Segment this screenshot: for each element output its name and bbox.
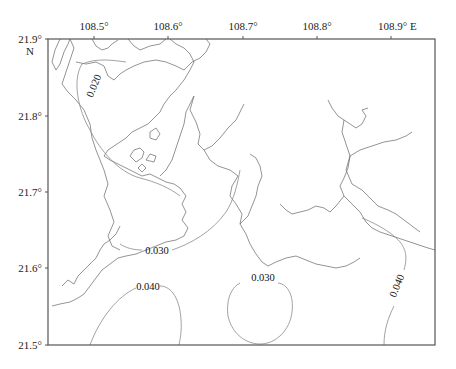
x-axis: 108.5° 108.6° 108.7° 108.8° 108.9° E — [79, 20, 416, 39]
y-tick-label-2: 21.8° — [18, 110, 42, 122]
contour-label-0030-west: 0.030 — [145, 245, 169, 256]
x-tick-label-5: 108.9° E — [378, 20, 417, 32]
contour-label-0040-west: 0.040 — [136, 281, 160, 292]
y-tick-label-5: 21.5° — [18, 339, 42, 351]
coastline-group — [52, 39, 435, 306]
coastline-north-bay — [76, 39, 210, 80]
y-tick-label-4: 21.6° — [18, 262, 42, 274]
island-cluster — [130, 128, 160, 172]
contour-group — [77, 60, 406, 345]
coastline-southwest — [62, 226, 120, 286]
contour-labels: 0.020 0.030 0.040 0.030 0.040 — [84, 73, 406, 299]
contour-map: 0.020 0.030 0.040 0.030 0.040 108.5° 108… — [0, 0, 456, 369]
y-axis: 21.9° N 21.8° 21.7° 21.6° 21.5° — [18, 33, 48, 351]
contour-label-0020: 0.020 — [84, 73, 103, 99]
x-tick-label-2: 108.6° — [153, 20, 182, 32]
coastline-central-north — [52, 39, 194, 306]
y-hemisphere-label: N — [26, 45, 34, 57]
x-tick-label-4: 108.8° — [302, 20, 331, 32]
y-tick-label-1: 21.9° — [18, 33, 42, 45]
x-tick-label-3: 108.7° — [228, 20, 257, 32]
y-tick-label-3: 21.7° — [18, 186, 42, 198]
coastline-east-harbor — [280, 100, 435, 250]
contour-line-0030-east — [228, 283, 293, 344]
x-tick-label-1: 108.5° — [79, 20, 108, 32]
coastline-west — [52, 39, 120, 250]
contour-label-0040-east: 0.040 — [387, 273, 406, 299]
coastline-east-estuary — [240, 154, 262, 224]
contour-line-0040-west — [90, 286, 181, 345]
map-frame — [48, 39, 435, 345]
contour-label-0030-east: 0.030 — [251, 272, 275, 283]
